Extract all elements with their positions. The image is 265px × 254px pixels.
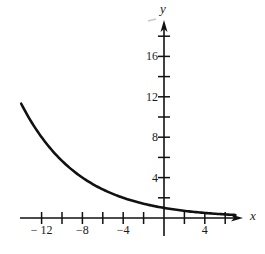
x-tick-label: −4 xyxy=(117,223,130,237)
y-tick-label: 16 xyxy=(146,49,158,63)
x-tick-labels: − 12−8−44 xyxy=(31,223,208,237)
x-tick-label: − 12 xyxy=(31,223,53,237)
y-tick-label: 12 xyxy=(146,90,158,104)
exponential-graph: − 12−8−44 481216 x y xyxy=(0,0,265,254)
x-tick-label: −8 xyxy=(76,223,89,237)
x-tick-label: 4 xyxy=(202,223,208,237)
scan-artifact xyxy=(148,19,156,21)
x-axis xyxy=(20,215,243,222)
y-tick-label: 4 xyxy=(152,171,158,185)
decay-curve xyxy=(21,104,235,215)
y-tick-labels: 481216 xyxy=(146,49,158,184)
y-tick-label: 8 xyxy=(152,130,158,144)
y-axis xyxy=(161,20,168,236)
y-axis-label: y xyxy=(158,1,166,16)
x-axis-label: x xyxy=(249,208,256,223)
